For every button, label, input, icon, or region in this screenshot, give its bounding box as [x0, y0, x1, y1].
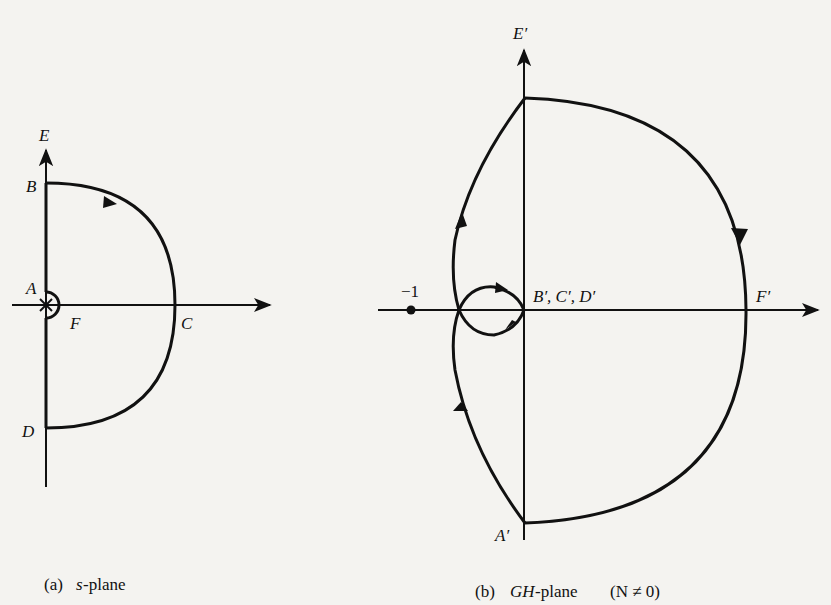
caption-b-cond: (N ≠ 0): [610, 582, 660, 601]
caption-a-tag: (a): [44, 575, 63, 594]
gh-upper-branch: [453, 98, 525, 310]
caption-b-text: -plane: [535, 582, 577, 601]
label-minus-one: −1: [401, 282, 419, 301]
label-D: D: [21, 422, 35, 441]
caption-a: (a) s -plane: [44, 575, 125, 594]
gh-arrow-upper-icon: [455, 212, 467, 229]
caption-a-text: -plane: [83, 575, 125, 594]
label-B: B: [26, 177, 37, 196]
label-A: A: [25, 279, 37, 298]
gh-plane-panel: E′ B′, C′, D′ F′ A′ −1: [378, 24, 818, 545]
caption-b-var: GH: [510, 582, 536, 601]
label-F: F: [69, 314, 81, 333]
s-direction-arrow-icon: [103, 196, 117, 208]
label-F-prime: F′: [755, 287, 770, 306]
label-BCD-prime: B′, C′, D′: [533, 287, 595, 306]
caption-b-tag: (b): [475, 582, 495, 601]
caption-b: (b) GH -plane (N ≠ 0): [475, 582, 660, 601]
label-A-prime: A′: [494, 526, 509, 545]
gh-lower-branch: [453, 310, 525, 523]
s-plane-panel: E B A F C D: [12, 126, 270, 487]
nyquist-diagram: E B A F C D E′ B′, C′, D′ F′ A′ −1: [0, 0, 831, 605]
minus-one-point: [407, 306, 416, 315]
label-E-prime: E′: [512, 24, 527, 43]
label-E: E: [38, 126, 50, 145]
gh-arrow-right-icon: [731, 228, 748, 245]
gh-arrow-lower-icon: [453, 402, 468, 411]
label-C: C: [181, 314, 193, 333]
caption-a-var: s: [76, 575, 83, 594]
